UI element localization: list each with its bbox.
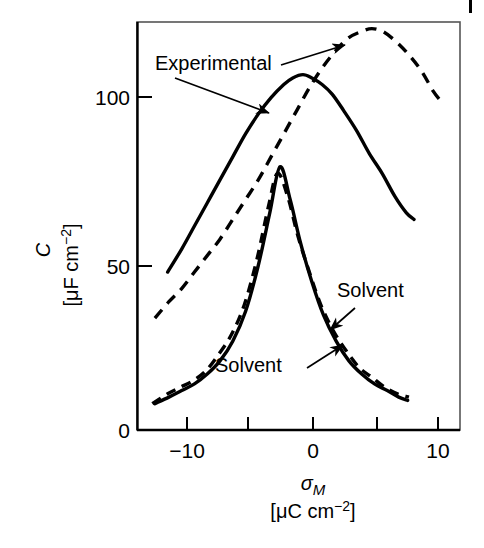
arrow-solvent-lower-to-curve-icon — [307, 345, 343, 368]
sigma-subscript: M — [313, 481, 326, 498]
x-axis-ticks — [187, 417, 438, 430]
y-units-close: ] — [60, 223, 82, 229]
capacitance-vs-charge-chart: −10 0 10 100 50 0 C [μF cm−2] σM [μC cm−… — [0, 0, 484, 548]
y-axis-units: [μF cm−2] — [58, 223, 82, 306]
x-units-close: ] — [350, 500, 356, 522]
plot-frame — [137, 22, 460, 430]
x-tick-label-0: 0 — [307, 439, 319, 462]
annotation-solvent-lower: Solvent — [215, 354, 282, 376]
y-tick-label-100: 100 — [95, 86, 130, 109]
x-axis-units: [μC cm−2] — [270, 498, 355, 522]
page-marker-icon — [469, 0, 472, 13]
y-tick-label-0: 0 — [118, 419, 130, 442]
y-units-exponent: −2 — [58, 229, 74, 245]
y-axis-title-symbol: C — [32, 242, 54, 257]
annotation-solvent-upper: Solvent — [337, 279, 404, 301]
x-axis-title-symbol: σM — [301, 472, 326, 498]
svg-text:[μF cm−2]: [μF cm−2] — [58, 223, 82, 306]
x-tick-label-10: 10 — [426, 439, 449, 462]
sigma-glyph: σ — [301, 472, 314, 494]
arrow-experimental-to-dashed-icon — [281, 45, 345, 65]
x-units-open: [μC cm — [270, 500, 334, 522]
annotation-experimental: Experimental — [155, 52, 272, 74]
curve-experimental-solid — [168, 75, 414, 272]
y-tick-label-50: 50 — [107, 255, 130, 278]
figure-root: −10 0 10 100 50 0 C [μF cm−2] σM [μC cm−… — [0, 0, 484, 548]
y-axis-ticks — [137, 97, 152, 266]
x-tick-label--10: −10 — [169, 439, 205, 462]
arrow-solvent-upper-to-curve-icon — [330, 308, 355, 330]
arrow-experimental-to-solid-icon — [175, 78, 269, 113]
y-units-open: [μF cm — [60, 245, 82, 307]
x-units-exponent: −2 — [334, 498, 350, 514]
